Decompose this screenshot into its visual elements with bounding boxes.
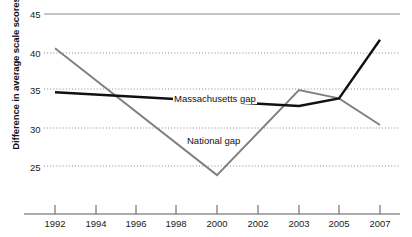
x-tick-label-2003: 2003 bbox=[279, 218, 319, 229]
x-tick-label-1994: 1994 bbox=[76, 218, 116, 229]
plot-area bbox=[0, 0, 412, 237]
x-tick-label-2000: 2000 bbox=[197, 218, 237, 229]
chart-container: Difference in average scale scores 45 40… bbox=[0, 0, 412, 237]
series-line-national-gap bbox=[55, 48, 380, 175]
x-tick-label-1996: 1996 bbox=[116, 218, 156, 229]
x-tick-label-1992: 1992 bbox=[35, 218, 75, 229]
x-tick-label-2005: 2005 bbox=[319, 218, 359, 229]
x-tick-label-1998: 1998 bbox=[156, 218, 196, 229]
series-label-massachusetts-gap: Massachusetts gap bbox=[173, 93, 257, 104]
x-tick-label-2002: 2002 bbox=[238, 218, 278, 229]
x-tick-label-2007: 2007 bbox=[360, 218, 400, 229]
series-label-national-gap: National gap bbox=[186, 135, 241, 146]
